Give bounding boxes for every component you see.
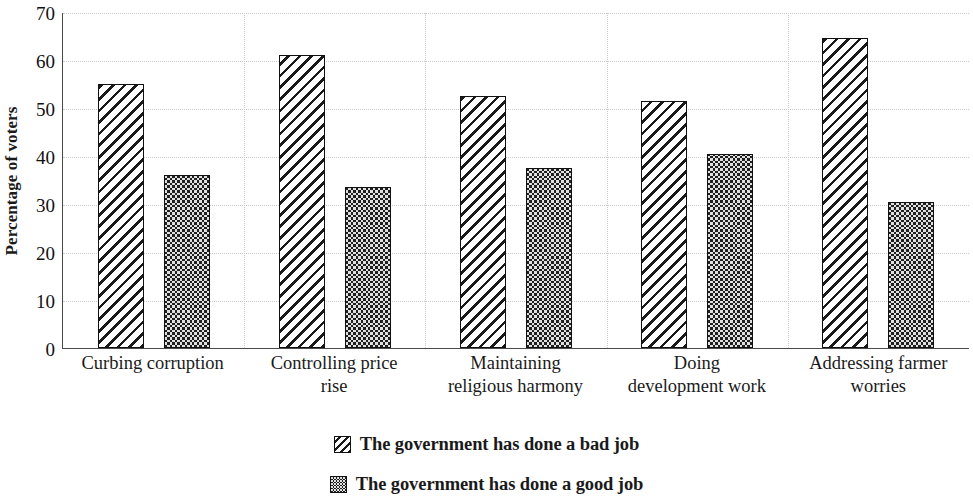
x-category-label-line: Maintaining xyxy=(427,352,604,375)
bar[interactable] xyxy=(164,175,210,348)
y-tick-label: 50 xyxy=(9,100,55,119)
legend-item-label: The government has done a bad job xyxy=(360,434,639,455)
bar[interactable] xyxy=(98,84,144,348)
y-tick-label: 60 xyxy=(9,52,55,71)
x-category-label: Curbing corruption xyxy=(62,352,243,408)
x-category-label-line: Doing xyxy=(608,352,785,375)
x-category-label-line: Controlling price xyxy=(245,352,422,375)
bar-group xyxy=(425,13,606,348)
x-category-label: Addressing farmerworries xyxy=(788,352,969,408)
bar-group xyxy=(788,13,969,348)
x-axis-category-labels: Curbing corruptionControlling priceriseM… xyxy=(62,352,969,408)
bar-chart-figure: Percentage of voters 010203040506070 Cur… xyxy=(0,0,973,502)
bar-group xyxy=(63,13,244,348)
bar-group xyxy=(244,13,425,348)
plot-area xyxy=(62,13,969,349)
x-category-label: Controlling pricerise xyxy=(243,352,424,408)
legend-hatch-swatch-icon xyxy=(334,436,351,453)
bar-group-bars xyxy=(788,13,969,348)
legend-checker-swatch-icon xyxy=(330,476,347,493)
y-tick-label: 10 xyxy=(9,292,55,311)
bar-groups xyxy=(63,13,969,348)
legend-item[interactable]: The government has done a bad job xyxy=(0,424,973,464)
x-category-label-line: Curbing corruption xyxy=(64,352,241,375)
y-tick-label: 40 xyxy=(9,148,55,167)
x-category-label-line: religious harmony xyxy=(427,375,604,398)
bar[interactable] xyxy=(526,168,572,348)
bar[interactable] xyxy=(279,55,325,348)
chart-legend: The government has done a bad jobThe gov… xyxy=(0,424,973,502)
bar-group-bars xyxy=(244,13,425,348)
x-category-label-line: rise xyxy=(245,375,422,398)
y-tick-label: 20 xyxy=(9,244,55,263)
bar-group-bars xyxy=(607,13,788,348)
legend-item[interactable]: The government has done a good job xyxy=(0,464,973,502)
x-category-label-line: Addressing farmer xyxy=(790,352,967,375)
bar[interactable] xyxy=(888,202,934,348)
x-category-label: Maintainingreligious harmony xyxy=(425,352,606,408)
x-category-label-line: worries xyxy=(790,375,967,398)
bar-group-bars xyxy=(63,13,244,348)
bar[interactable] xyxy=(707,154,753,348)
x-category-label: Doingdevelopment work xyxy=(606,352,787,408)
x-category-label-line: development work xyxy=(608,375,785,398)
bar[interactable] xyxy=(822,38,868,348)
y-tick-label: 30 xyxy=(9,196,55,215)
bar[interactable] xyxy=(345,187,391,348)
bar[interactable] xyxy=(641,101,687,348)
y-tick-label: 0 xyxy=(9,340,55,359)
bar-group xyxy=(607,13,788,348)
y-tick-label: 70 xyxy=(9,4,55,23)
bar-group-bars xyxy=(425,13,606,348)
legend-item-label: The government has done a good job xyxy=(356,474,644,495)
bar[interactable] xyxy=(460,96,506,348)
